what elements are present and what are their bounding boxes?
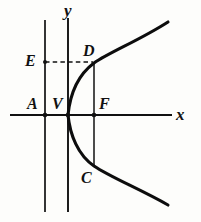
point-label-A: A <box>27 96 38 112</box>
point-label-E: E <box>25 53 36 69</box>
point-dot-V <box>66 113 71 118</box>
point-label-D: D <box>83 43 95 59</box>
point-dot-F <box>92 113 97 118</box>
point-dot-E <box>43 60 47 64</box>
point-label-V: V <box>52 96 63 112</box>
y-axis-label: y <box>64 2 72 19</box>
x-axis-label: x <box>176 106 185 123</box>
point-label-F: F <box>99 96 110 112</box>
parabola-figure: y x E D A V F C <box>0 0 201 222</box>
point-label-C: C <box>81 170 92 186</box>
point-dot-A <box>43 113 48 118</box>
